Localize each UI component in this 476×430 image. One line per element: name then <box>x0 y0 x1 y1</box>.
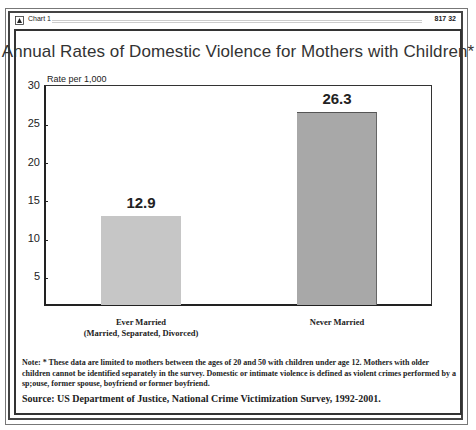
chart-doc-icon <box>15 16 24 25</box>
y-tick-20: 20 <box>18 156 40 168</box>
category-label-never-married: Never Married <box>277 317 397 328</box>
bar-value-ever-married: 12.9 <box>101 194 181 211</box>
category-label-ever-married: Ever Married (Married, Separated, Divorc… <box>81 317 201 339</box>
title-bar-rule <box>52 20 422 23</box>
bar-value-never-married: 26.3 <box>297 90 377 107</box>
y-tick-15: 15 <box>18 194 40 206</box>
y-tick-mark <box>45 201 48 202</box>
title-bar: Chart 1 817 32 <box>12 14 462 28</box>
bar-never-married <box>297 112 377 305</box>
y-tick-30: 30 <box>18 79 40 91</box>
y-axis-label: Rate per 1,000 <box>47 74 107 84</box>
window-code: 817 32 <box>435 15 456 22</box>
category-label-line1: Never Married <box>277 317 397 328</box>
footnote: Note: * These data are limited to mother… <box>22 358 458 390</box>
bar-ever-married <box>101 216 181 305</box>
y-tick-10: 10 <box>18 232 40 244</box>
y-tick-mark <box>45 278 48 279</box>
chart-title: Annual Rates of Domestic Violence for Mo… <box>0 42 476 62</box>
y-tick-mark <box>45 163 48 164</box>
window-title: Chart 1 <box>28 15 51 22</box>
y-tick-5: 5 <box>18 270 40 282</box>
source-citation: Source: US Department of Justice, Nation… <box>22 393 381 404</box>
y-tick-mark <box>45 240 48 241</box>
category-label-line1: Ever Married <box>81 317 201 328</box>
y-tick-25: 25 <box>18 117 40 129</box>
y-tick-mark <box>45 125 48 126</box>
category-label-line2: (Married, Separated, Divorced) <box>81 328 201 339</box>
